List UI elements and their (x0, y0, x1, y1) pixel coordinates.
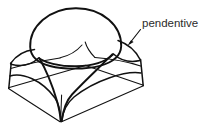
callout-label-pendentive: pendentive (142, 17, 198, 29)
base-edge-back-right (86, 65, 144, 85)
pendentive-back-left-edge (60, 45, 82, 58)
base-edge-front-right (62, 86, 144, 122)
pendentive-left-inner (11, 59, 38, 66)
dome-group (30, 8, 121, 68)
pendentive-dome-diagram: pendentive (0, 0, 206, 129)
pendentive-back-right-edge (85, 42, 95, 57)
figure-canvas: pendentive (0, 0, 206, 129)
callout-arrowhead-icon (127, 40, 133, 46)
arch-front-left (10, 75, 61, 121)
pendentives-group (11, 41, 141, 122)
callout-pendentive: pendentive (127, 17, 198, 46)
